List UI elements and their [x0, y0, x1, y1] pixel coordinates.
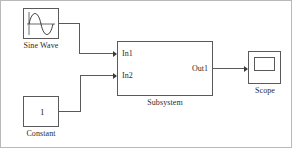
constant-value: 1 — [40, 107, 45, 117]
simulink-diagram-canvas: Sine Wave 1 Constant In1 In2 Out1 Subsys… — [0, 0, 292, 148]
sine-wave-label: Sine Wave — [11, 41, 71, 51]
wire-sine-segment-1 — [59, 23, 80, 24]
constant-block[interactable]: 1 — [23, 96, 59, 127]
subsystem-label: Subsystem — [131, 98, 199, 108]
wire-sine-segment-3 — [79, 53, 114, 54]
subsystem-input-port-in1: In1 — [122, 49, 133, 58]
wire-sine-segment-2 — [79, 23, 80, 54]
subsystem-input-port-in2: In2 — [122, 71, 133, 80]
wire-constant-segment-1 — [59, 111, 81, 112]
sine-wave-block[interactable] — [23, 8, 59, 39]
scope-block[interactable] — [248, 51, 281, 84]
wire-constant-segment-2 — [80, 75, 81, 112]
wire-constant-segment-3 — [80, 75, 114, 76]
wire-out1-to-scope — [213, 68, 245, 69]
scope-label: Scope — [239, 86, 291, 96]
subsystem-output-port-out1: Out1 — [192, 64, 208, 73]
constant-label: Constant — [11, 129, 71, 139]
sine-wave-icon — [24, 9, 58, 38]
